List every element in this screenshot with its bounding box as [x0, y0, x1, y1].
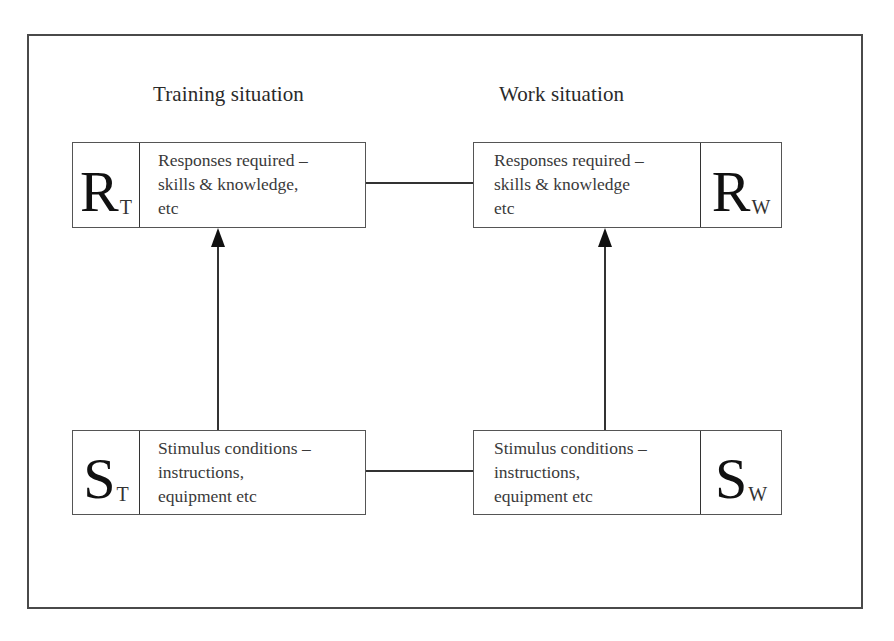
description-line: Stimulus conditions –: [158, 436, 355, 460]
description-stimulus-work: Stimulus conditions – instructions, equi…: [474, 431, 700, 514]
description-line: Responses required –: [158, 148, 355, 172]
description-line: equipment etc: [494, 484, 690, 508]
description-line: instructions,: [158, 460, 355, 484]
symbol-response-work: RW: [700, 143, 781, 227]
symbol-letter: S: [83, 450, 115, 508]
diagram-frame: [27, 34, 863, 609]
heading-training-situation: Training situation: [153, 82, 304, 107]
symbol-letter: R: [80, 163, 119, 221]
description-line: instructions,: [494, 460, 690, 484]
description-line: Responses required –: [494, 148, 690, 172]
description-line: skills & knowledge,: [158, 172, 355, 196]
description-stimulus-training: Stimulus conditions – instructions, equi…: [140, 431, 365, 514]
description-line: Stimulus conditions –: [494, 436, 690, 460]
node-response-training: RT Responses required – skills & knowled…: [72, 142, 366, 228]
symbol-subscript: W: [748, 484, 767, 508]
symbol-letter: R: [712, 163, 751, 221]
heading-work-situation: Work situation: [499, 82, 624, 107]
symbol-subscript: T: [120, 197, 132, 221]
symbol-response-training: RT: [73, 143, 140, 227]
symbol-stimulus-work: SW: [700, 431, 781, 514]
description-line: etc: [158, 196, 355, 220]
description-line: etc: [494, 196, 690, 220]
symbol-subscript: W: [751, 197, 770, 221]
description-response-work: Responses required – skills & knowledge …: [474, 143, 700, 227]
node-stimulus-work: Stimulus conditions – instructions, equi…: [473, 430, 782, 515]
description-response-training: Responses required – skills & knowledge,…: [140, 143, 365, 227]
node-stimulus-training: ST Stimulus conditions – instructions, e…: [72, 430, 366, 515]
description-line: skills & knowledge: [494, 172, 690, 196]
symbol-subscript: T: [117, 484, 129, 508]
symbol-stimulus-training: ST: [73, 431, 140, 514]
description-line: equipment etc: [158, 484, 355, 508]
symbol-letter: S: [715, 450, 747, 508]
node-response-work: Responses required – skills & knowledge …: [473, 142, 782, 228]
